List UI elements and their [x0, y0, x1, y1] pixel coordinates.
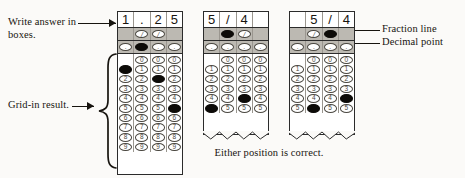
decimal-cell-2[interactable]: .	[134, 41, 150, 53]
digit-bubble-3[interactable]: 3	[221, 85, 234, 94]
decimal-cell-4[interactable]: .	[253, 41, 268, 53]
digit-bubble-1[interactable]: 1	[238, 65, 251, 74]
digit-bubble-5[interactable]: 5	[152, 104, 165, 113]
digit-bubble-2[interactable]: 2	[324, 75, 337, 84]
answer-entry-cell-2[interactable]: /	[220, 12, 236, 27]
decimal-cell-1[interactable]: .	[290, 41, 306, 53]
digit-bubble-1[interactable]: 1	[135, 65, 148, 74]
digit-column-3[interactable]: 012345	[237, 54, 253, 113]
digit-bubble-5[interactable]: 5	[221, 104, 234, 113]
digit-bubble-1[interactable]: 1	[291, 65, 304, 74]
decimal-cell-3[interactable]: .	[323, 41, 339, 53]
digit-bubble-9[interactable]: 9	[119, 143, 132, 152]
digit-column-2[interactable]: 012345	[220, 54, 236, 113]
fraction-bubble-filled[interactable]: /	[221, 30, 234, 39]
fraction-cell-1[interactable]: /	[290, 28, 306, 40]
digit-bubble-area[interactable]: 012345012345012345012345	[204, 54, 268, 113]
digit-bubble-0[interactable]: 0	[307, 56, 320, 65]
digit-bubble-6[interactable]: 6	[119, 114, 132, 123]
digit-bubble-6[interactable]: 6	[168, 114, 181, 123]
digit-bubble-0[interactable]: 0	[324, 56, 337, 65]
digit-bubble-3[interactable]: 3	[119, 85, 132, 94]
decimal-cell-1[interactable]: .	[204, 41, 220, 53]
digit-bubble-8[interactable]: 8	[119, 133, 132, 142]
digit-bubble-filled-5[interactable]: 5	[205, 104, 218, 113]
answer-entry-cell-2[interactable]: 5	[306, 12, 322, 27]
decimal-cell-3[interactable]: .	[237, 41, 253, 53]
decimal-cell-2[interactable]: .	[220, 41, 236, 53]
decimal-point-row[interactable]: ....	[204, 41, 268, 54]
digit-bubble-4[interactable]: 4	[168, 94, 181, 103]
fraction-bubble[interactable]: /	[307, 30, 320, 39]
digit-bubble-0[interactable]: 0	[238, 56, 251, 65]
digit-column-2[interactable]: 0123456789	[134, 54, 150, 152]
answer-entry-cell-2[interactable]: .	[134, 12, 150, 27]
digit-column-1[interactable]: 012345	[204, 54, 220, 113]
digit-bubble-1[interactable]: 1	[254, 65, 267, 74]
digit-bubble-5[interactable]: 5	[135, 104, 148, 113]
fraction-cell-1[interactable]: /	[118, 28, 134, 40]
fraction-bubble-filled[interactable]: /	[324, 30, 337, 39]
digit-bubble-1[interactable]: 1	[221, 65, 234, 74]
digit-bubble-2[interactable]: 2	[135, 75, 148, 84]
digit-bubble-filled-5[interactable]: 5	[168, 104, 181, 113]
digit-column-4[interactable]: 012345	[339, 54, 354, 113]
digit-bubble-4[interactable]: 4	[152, 94, 165, 103]
decimal-bubble[interactable]: .	[119, 43, 132, 52]
decimal-cell-1[interactable]: .	[118, 41, 134, 53]
digit-bubble-2[interactable]: 2	[291, 75, 304, 84]
digit-bubble-5[interactable]: 5	[324, 104, 337, 113]
digit-bubble-2[interactable]: 2	[340, 75, 353, 84]
digit-bubble-1[interactable]: 1	[168, 65, 181, 74]
digit-bubble-filled-5[interactable]: 5	[307, 104, 320, 113]
fraction-cell-1[interactable]: /	[204, 28, 220, 40]
digit-bubble-5[interactable]: 5	[291, 104, 304, 113]
digit-bubble-0[interactable]: 0	[254, 56, 267, 65]
digit-bubble-3[interactable]: 3	[254, 85, 267, 94]
decimal-bubble[interactable]: .	[238, 43, 251, 52]
digit-bubble-4[interactable]: 4	[254, 94, 267, 103]
decimal-cell-4[interactable]: .	[339, 41, 354, 53]
decimal-bubble[interactable]: .	[307, 43, 320, 52]
fraction-cell-3[interactable]: /	[323, 28, 339, 40]
digit-bubble-5[interactable]: 5	[119, 104, 132, 113]
decimal-bubble[interactable]: .	[168, 43, 181, 52]
digit-bubble-filled-4[interactable]: 4	[340, 94, 353, 103]
digit-bubble-0[interactable]: 0	[340, 56, 353, 65]
digit-bubble-8[interactable]: 8	[168, 133, 181, 142]
answer-entry-row[interactable]: 5/4	[290, 12, 354, 28]
digit-bubble-4[interactable]: 4	[291, 94, 304, 103]
fraction-answer-grid-right[interactable]: 5/4////....012345012345012345012345	[289, 11, 355, 135]
decimal-bubble[interactable]: .	[291, 43, 304, 52]
decimal-bubble[interactable]: .	[324, 43, 337, 52]
digit-bubble-4[interactable]: 4	[119, 94, 132, 103]
answer-entry-cell-1[interactable]: 5	[204, 12, 220, 27]
digit-bubble-2[interactable]: 2	[119, 75, 132, 84]
digit-bubble-filled-1[interactable]: 1	[119, 65, 132, 74]
decimal-bubble[interactable]: .	[152, 43, 165, 52]
digit-bubble-5[interactable]: 5	[254, 104, 267, 113]
fraction-bubble[interactable]: /	[152, 30, 165, 39]
decimal-point-row[interactable]: ....	[118, 41, 182, 54]
fraction-cell-2[interactable]: /	[306, 28, 322, 40]
digit-bubble-1[interactable]: 1	[324, 65, 337, 74]
digit-bubble-filled-4[interactable]: 4	[238, 94, 251, 103]
fraction-line-row[interactable]: ////	[118, 28, 182, 41]
digit-bubble-1[interactable]: 1	[307, 65, 320, 74]
fraction-cell-3[interactable]: /	[151, 28, 167, 40]
digit-bubble-8[interactable]: 8	[152, 133, 165, 142]
digit-bubble-3[interactable]: 3	[307, 85, 320, 94]
fraction-cell-4[interactable]: /	[167, 28, 182, 40]
fraction-bubble[interactable]: /	[238, 30, 251, 39]
digit-bubble-area[interactable]: 012345012345012345012345	[290, 54, 354, 113]
digit-bubble-2[interactable]: 2	[168, 75, 181, 84]
digit-bubble-7[interactable]: 7	[135, 123, 148, 132]
fraction-line-row[interactable]: ////	[290, 28, 354, 41]
digit-bubble-3[interactable]: 3	[238, 85, 251, 94]
digit-bubble-9[interactable]: 9	[152, 143, 165, 152]
digit-bubble-3[interactable]: 3	[340, 85, 353, 94]
digit-bubble-3[interactable]: 3	[291, 85, 304, 94]
fraction-cell-3[interactable]: /	[237, 28, 253, 40]
decimal-cell-3[interactable]: .	[151, 41, 167, 53]
digit-bubble-9[interactable]: 9	[135, 143, 148, 152]
